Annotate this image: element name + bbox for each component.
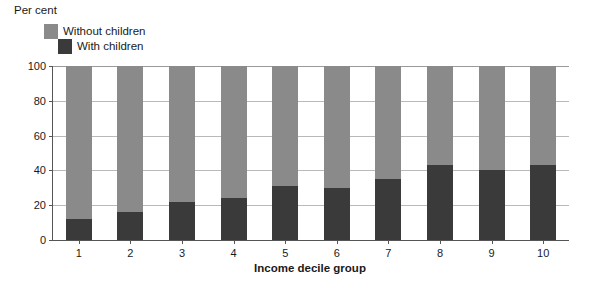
x-tick-mark — [440, 240, 441, 244]
x-tick-label: 2 — [110, 247, 150, 259]
legend-item-with-children: With children — [58, 39, 143, 54]
x-tick-label: 8 — [420, 247, 460, 259]
bar-segment-without-children[interactable] — [272, 66, 298, 186]
bar-segment-with-children[interactable] — [375, 179, 401, 240]
x-tick-mark — [388, 240, 389, 244]
x-tick-mark — [337, 240, 338, 244]
bar-group[interactable] — [221, 66, 247, 240]
y-tick-label: 100 — [28, 61, 46, 72]
y-tick-label: 40 — [34, 165, 46, 176]
x-tick-mark — [492, 240, 493, 244]
bar-segment-with-children[interactable] — [117, 212, 143, 240]
legend-label-with-children: With children — [77, 40, 143, 53]
bar-segment-with-children[interactable] — [427, 165, 453, 240]
legend-swatch-without-children-icon — [44, 24, 58, 39]
bar-segment-without-children[interactable] — [530, 66, 556, 165]
percentage-stacked-bar-chart: Per cent Without children With children … — [0, 0, 593, 287]
bar-segment-without-children[interactable] — [221, 66, 247, 198]
x-tick-label: 10 — [523, 247, 563, 259]
chart-legend: Without children With children — [44, 24, 264, 56]
x-tick-mark — [182, 240, 183, 244]
x-tick-label: 9 — [472, 247, 512, 259]
x-tick-mark — [130, 240, 131, 244]
bar-group[interactable] — [117, 66, 143, 240]
y-tick-mark — [49, 240, 53, 241]
y-tick-label: 80 — [34, 96, 46, 107]
bar-segment-with-children[interactable] — [272, 186, 298, 240]
bar-segment-without-children[interactable] — [479, 66, 505, 170]
x-tick-label: 6 — [317, 247, 357, 259]
x-tick-label: 4 — [214, 247, 254, 259]
bar-segment-with-children[interactable] — [66, 219, 92, 240]
bar-group[interactable] — [324, 66, 350, 240]
legend-item-without-children: Without children — [44, 24, 145, 39]
y-tick-label: 20 — [34, 200, 46, 211]
bar-series-container: 12345678910 — [53, 66, 569, 240]
bar-segment-without-children[interactable] — [66, 66, 92, 219]
x-tick-label: 5 — [265, 247, 305, 259]
x-tick-label: 3 — [162, 247, 202, 259]
legend-swatch-with-children-icon — [58, 39, 72, 54]
bar-segment-without-children[interactable] — [324, 66, 350, 188]
bar-segment-without-children[interactable] — [169, 66, 195, 202]
x-tick-mark — [285, 240, 286, 244]
plot-area: 020406080100 12345678910 — [52, 66, 569, 241]
bar-group[interactable] — [427, 66, 453, 240]
bar-segment-without-children[interactable] — [375, 66, 401, 179]
bar-segment-with-children[interactable] — [479, 170, 505, 240]
x-axis-title: Income decile group — [52, 262, 568, 274]
bar-group[interactable] — [272, 66, 298, 240]
bar-segment-without-children[interactable] — [427, 66, 453, 165]
legend-label-without-children: Without children — [63, 25, 145, 38]
bar-segment-with-children[interactable] — [530, 165, 556, 240]
bar-group[interactable] — [375, 66, 401, 240]
bar-segment-with-children[interactable] — [169, 202, 195, 240]
bar-group[interactable] — [530, 66, 556, 240]
y-tick-label: 60 — [34, 131, 46, 142]
x-tick-mark — [234, 240, 235, 244]
x-tick-mark — [543, 240, 544, 244]
bar-group[interactable] — [169, 66, 195, 240]
x-tick-mark — [79, 240, 80, 244]
bar-segment-without-children[interactable] — [117, 66, 143, 212]
y-axis-caption: Per cent — [14, 3, 57, 17]
y-tick-label: 0 — [40, 235, 46, 246]
x-tick-label: 1 — [59, 247, 99, 259]
x-tick-label: 7 — [368, 247, 408, 259]
bar-segment-with-children[interactable] — [324, 188, 350, 240]
bar-segment-with-children[interactable] — [221, 198, 247, 240]
bar-group[interactable] — [479, 66, 505, 240]
bar-group[interactable] — [66, 66, 92, 240]
